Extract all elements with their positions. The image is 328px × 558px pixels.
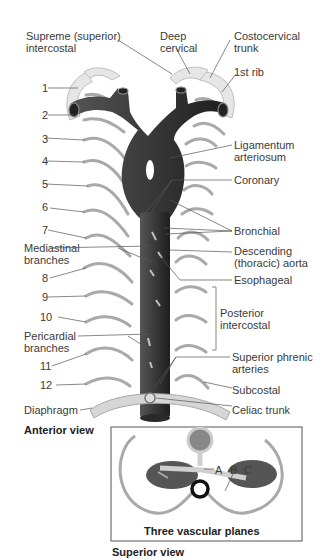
intercostal-branches-left	[84, 94, 132, 386]
label-mediastinal-branches: Mediastinal branches	[24, 242, 80, 266]
label-esophageal: Esophageal	[234, 274, 292, 286]
label-first-rib: 1st rib	[234, 66, 264, 78]
label-ligamentum-arteriosum: Ligamentum arteriosum	[234, 139, 295, 163]
label-supreme-intercostal: Supreme (superior) intercostal	[26, 30, 121, 54]
rib-number-10: 10	[40, 311, 52, 323]
rib-number-11: 11	[40, 360, 51, 372]
intercostal-branches-right	[176, 98, 224, 388]
inset-label-c: C	[244, 464, 252, 476]
rib-number-7: 7	[42, 224, 48, 236]
rib-number-5: 5	[42, 178, 48, 190]
label-posterior-intercostal: Posterior intercostal	[220, 307, 270, 331]
caption-anterior-view: Anterior view	[24, 424, 94, 436]
rib-number-2: 2	[42, 109, 48, 121]
inset-label-a: A	[215, 464, 222, 476]
rib-number-6: 6	[42, 201, 48, 213]
label-pericardial-branches: Pericardial branches	[24, 330, 76, 354]
label-deep-cervical: Deep cervical	[160, 30, 197, 54]
rib-number-9: 9	[42, 291, 48, 303]
rib-number-4: 4	[42, 155, 48, 167]
celiac-trunk	[145, 393, 155, 403]
label-superior-phrenic: Superior phrenic arteries	[232, 351, 313, 375]
label-bronchial: Bronchial	[234, 225, 280, 237]
arch-gap	[146, 160, 154, 180]
caption-superior-view: Superior view	[112, 546, 184, 558]
label-diaphragm: Diaphragm	[24, 404, 78, 416]
label-celiac-trunk: Celiac trunk	[232, 404, 290, 416]
rib-number-1: 1	[42, 82, 48, 94]
label-subcostal: Subcostal	[232, 384, 280, 396]
label-costocervical-trunk: Costocervical trunk	[234, 30, 300, 54]
label-descending-aorta: Descending (thoracic) aorta	[234, 245, 308, 269]
rib-number-3: 3	[42, 133, 48, 145]
inset-caption: Three vascular planes	[144, 525, 260, 537]
label-coronary: Coronary	[234, 174, 279, 186]
rib-number-12: 12	[40, 379, 52, 391]
rib-number-8: 8	[42, 272, 48, 284]
inset-label-b: B	[230, 464, 237, 476]
